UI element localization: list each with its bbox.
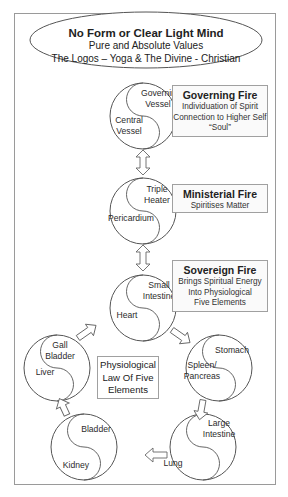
header-title: No Form or Clear Light Mind xyxy=(40,26,252,40)
sovereign-fire-line: Brings Spiritual Energy xyxy=(173,277,267,288)
sovereign-fire-box: Sovereign Fire Brings Spiritual Energy I… xyxy=(172,260,268,312)
sovereign-fire-title: Sovereign Fire xyxy=(173,264,267,277)
ministerial-fire-line: Spiritises Matter xyxy=(173,201,267,212)
stomach-lower-label: Spleen/Pancreas xyxy=(180,360,224,381)
ministerial-fire-box: Ministerial Fire Spiritises Matter xyxy=(172,184,268,213)
governing-fire-line: “Soul” xyxy=(173,123,267,134)
heart-lower-label: Heart xyxy=(112,310,142,321)
arrow-liver-heart xyxy=(74,320,100,344)
kidney-upper-label: Bladder xyxy=(78,424,114,435)
governing-fire-line: Individuation of Spirit xyxy=(173,102,267,113)
governing-fire-box: Governing Fire Individuation of Spirit C… xyxy=(172,85,268,137)
double-arrow-triple-heart xyxy=(136,245,150,271)
header-line2: The Logos – Yoga & The Divine - Christia… xyxy=(40,53,252,66)
liver-lower-label: Liver xyxy=(30,367,60,378)
kidney-lower-label: Kidney xyxy=(61,460,91,471)
sovereign-fire-line: Five Elements xyxy=(173,298,267,309)
five-elements-line: Law Of Five xyxy=(98,372,158,385)
five-elements-line: Physiological xyxy=(98,359,158,372)
triple-upper-label: TripleHeater xyxy=(142,184,172,205)
governing-fire-line: Connection to Higher Self xyxy=(173,113,267,124)
five-elements-line: Elements xyxy=(98,384,158,397)
header-line1: Pure and Absolute Values xyxy=(40,40,252,53)
arrow-heart-stomach xyxy=(168,324,194,348)
header-ellipse-text: No Form or Clear Light Mind Pure and Abs… xyxy=(40,26,252,65)
diagram-graphics xyxy=(0,0,288,497)
governing-fire-title: Governing Fire xyxy=(173,89,267,102)
ministerial-fire-title: Ministerial Fire xyxy=(173,188,267,201)
five-elements-box: Physiological Law Of Five Elements xyxy=(97,356,159,399)
lung-lower-label: Lung xyxy=(158,458,188,469)
stomach-upper-label: Stomach xyxy=(214,345,250,356)
double-arrow-governing-triple xyxy=(136,150,150,175)
lung-upper-label: LargeIntestine xyxy=(200,418,238,439)
governing-lower-label: CentralVessel xyxy=(111,115,147,136)
sovereign-fire-line: Into Physiological xyxy=(173,288,267,299)
governing-upper-label: GoverningVessel xyxy=(141,88,175,109)
triple-lower-label: Pericardium xyxy=(106,213,156,224)
liver-upper-label: GallBladder xyxy=(44,340,76,361)
